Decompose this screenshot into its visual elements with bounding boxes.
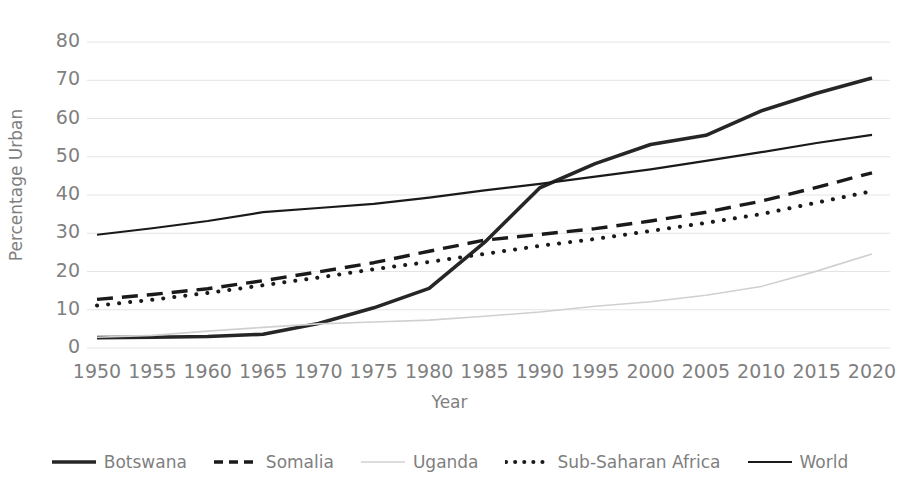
y-tick-label: 40	[0, 182, 80, 204]
x-tick-label: 1985	[455, 360, 515, 382]
legend-item-label: Somalia	[266, 452, 334, 472]
legend-item-label: World	[800, 452, 849, 472]
legend-item-world[interactable]: World	[747, 452, 849, 472]
y-tick-label: 60	[0, 106, 80, 128]
x-tick-label: 1965	[233, 360, 293, 382]
line-chart: Percentage Urban 01020304050607080 19501…	[0, 0, 899, 491]
legend-swatch-icon	[360, 455, 406, 469]
y-tick-label: 20	[0, 259, 80, 281]
series-line-sub-saharan-africa	[97, 191, 872, 305]
y-tick-label: 30	[0, 220, 80, 242]
x-tick-label: 2015	[787, 360, 847, 382]
legend-swatch-icon	[213, 455, 259, 469]
y-tick-label: 0	[0, 335, 80, 357]
y-tick-label: 70	[0, 67, 80, 89]
legend-swatch-icon	[51, 455, 97, 469]
x-tick-label: 2020	[842, 360, 899, 382]
x-tick-label: 2010	[731, 360, 791, 382]
legend-item-label: Uganda	[413, 452, 479, 472]
data-series-group	[97, 78, 872, 338]
y-tick-label: 80	[0, 29, 80, 51]
legend-item-botswana[interactable]: Botswana	[51, 452, 187, 472]
x-tick-label: 1950	[67, 360, 127, 382]
legend-swatch-icon	[747, 455, 793, 469]
x-tick-label: 2005	[676, 360, 736, 382]
gridlines	[87, 42, 890, 348]
x-tick-label: 1960	[178, 360, 238, 382]
x-axis-title: Year	[0, 392, 899, 412]
x-tick-label: 1980	[399, 360, 459, 382]
x-tick-label: 2000	[621, 360, 681, 382]
series-line-uganda	[97, 254, 872, 337]
series-line-world	[97, 135, 872, 235]
x-tick-label: 1995	[565, 360, 625, 382]
x-tick-label: 1975	[344, 360, 404, 382]
y-tick-label: 10	[0, 297, 80, 319]
chart-legend: BotswanaSomaliaUgandaSub-Saharan AfricaW…	[0, 452, 899, 472]
chart-plot-area	[0, 0, 899, 491]
legend-item-label: Botswana	[104, 452, 187, 472]
legend-item-sub-saharan-africa[interactable]: Sub-Saharan Africa	[505, 452, 721, 472]
x-tick-label: 1955	[122, 360, 182, 382]
legend-item-label: Sub-Saharan Africa	[558, 452, 721, 472]
legend-swatch-icon	[505, 455, 551, 469]
series-line-somalia	[97, 173, 872, 300]
legend-item-somalia[interactable]: Somalia	[213, 452, 334, 472]
series-line-botswana	[97, 78, 872, 338]
x-tick-label: 1970	[288, 360, 348, 382]
legend-item-uganda[interactable]: Uganda	[360, 452, 479, 472]
x-tick-label: 1990	[510, 360, 570, 382]
y-tick-label: 50	[0, 144, 80, 166]
